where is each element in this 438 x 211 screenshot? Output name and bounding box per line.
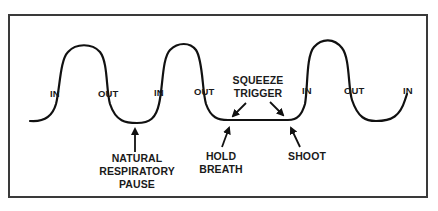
label-in-1: IN [50,87,60,100]
label-out-3: OUT [344,84,364,97]
hold-breath-label: HOLD BREATH [196,150,246,176]
breathing-waveform [0,0,438,211]
respiration-curve [30,40,407,123]
shoot-label: SHOOT [282,150,332,163]
squeeze-arrow-left [233,103,246,116]
label-in-4: IN [403,84,413,97]
squeeze-arrow-right [270,102,283,115]
label-in-2: IN [154,86,164,99]
label-out-1: OUT [98,87,118,100]
label-out-2: OUT [194,85,214,98]
shoot-arrow [291,128,300,147]
squeeze-trigger-label: SQUEEZE TRIGGER [230,74,286,100]
label-in-3: IN [302,84,312,97]
natural-pause-label: NATURAL RESPIRATORY PAUSE [98,152,176,191]
hold-breath-arrow [222,128,229,147]
